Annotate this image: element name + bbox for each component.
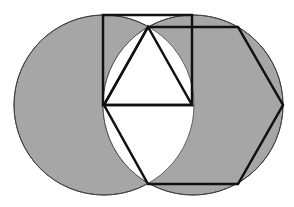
geometry-figure	[0, 0, 294, 207]
